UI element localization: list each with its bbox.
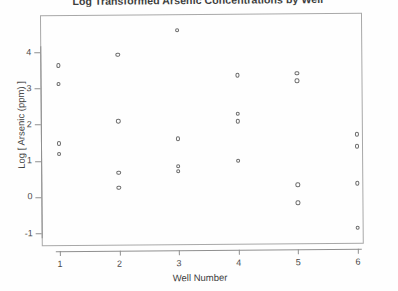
data-point: [57, 152, 62, 157]
data-point: [295, 183, 300, 188]
data-point: [295, 78, 300, 83]
x-axis-tick: [60, 251, 61, 256]
data-point: [235, 111, 240, 116]
x-axis-tick: [298, 249, 299, 254]
data-point: [355, 144, 360, 149]
data-point: [116, 119, 121, 124]
x-axis-tick: [179, 250, 180, 255]
data-point: [175, 28, 180, 33]
x-axis-tick-label: 4: [229, 258, 249, 268]
y-axis-tick-label: -1: [15, 229, 33, 238]
data-point: [235, 119, 240, 124]
x-axis-tick-label: 6: [348, 257, 368, 267]
data-point: [116, 52, 121, 57]
data-point: [355, 132, 360, 137]
data-point: [236, 158, 241, 163]
data-point: [176, 169, 181, 174]
chart-title: Log Transformed Arsenic Concentrations b…: [0, 0, 397, 8]
data-point: [355, 181, 360, 186]
data-point: [295, 71, 300, 76]
chart-figure: Log Transformed Arsenic Concentrations b…: [0, 0, 398, 291]
x-axis-title: Well Number: [1, 270, 398, 284]
data-point: [176, 164, 181, 169]
x-axis-tick-label: 2: [109, 259, 129, 269]
y-axis-title: Log [ Arsenic (ppm) ]: [15, 55, 27, 195]
data-point: [56, 82, 61, 87]
x-axis-tick-label: 5: [288, 257, 308, 267]
x-axis-tick-label: 3: [169, 258, 189, 268]
data-point: [57, 141, 62, 146]
data-point: [296, 201, 301, 206]
x-axis-tick-label: 1: [50, 259, 70, 269]
data-point: [355, 226, 360, 231]
x-axis-tick: [239, 250, 240, 255]
data-point: [116, 170, 121, 175]
chart-canvas: Log Transformed Arsenic Concentrations b…: [0, 0, 398, 291]
data-point: [117, 185, 122, 190]
x-axis-tick: [358, 249, 359, 254]
data-point: [235, 73, 240, 78]
x-axis-line: [56, 249, 362, 252]
x-axis-tick: [119, 251, 120, 256]
data-point: [176, 136, 181, 141]
plot-data-area: [40, 13, 364, 247]
data-point: [56, 64, 61, 69]
